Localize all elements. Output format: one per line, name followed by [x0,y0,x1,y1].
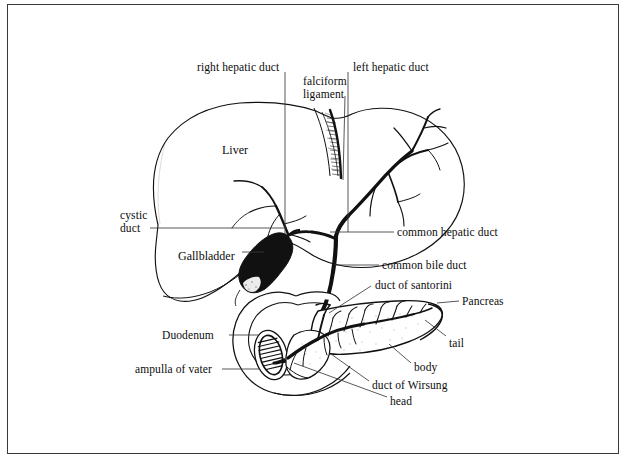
annotation-right-hepatic-duct: right hepatic duct [197,61,279,74]
annotation-duodenum: Duodenum [162,329,214,342]
annotation-falciform-ligament-line-2: ligament [303,88,344,101]
pancreas-leader [437,301,459,303]
annotation-tail: tail [449,337,464,350]
anatomical-diagram [0,0,628,464]
organ-label-gallbladder: Gallbladder [178,249,235,264]
annotation-head: head [390,395,412,408]
body-leader [389,344,411,363]
annotation-ampulla-of-vater: ampulla of vater [135,363,212,376]
annotation-body: body [414,361,437,374]
annotation-common-hepatic-duct: common hepatic duct [397,226,498,239]
annotation-falciform-ligament-line-1: falciform [303,75,347,88]
annotation-pancreas: Pancreas [462,295,504,308]
figure-root: Liver Gallbladder right hepatic duct fal… [0,0,628,464]
annotation-cystic-duct-line-1: cystic [120,209,147,222]
annotation-cystic-duct-line-2: duct [120,222,140,235]
annotation-common-bile-duct: common bile duct [382,259,467,272]
annotation-duct-of-santorini: duct of santorini [375,279,452,292]
organ-label-liver: Liver [222,143,248,158]
annotation-duct-of-wirsung: duct of Wirsung [372,379,448,392]
annotation-left-hepatic-duct: left hepatic duct [353,61,429,74]
